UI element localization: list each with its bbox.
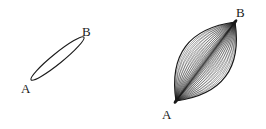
left-figure-label-a: A <box>21 82 30 95</box>
figure-drawing-surface <box>0 0 266 129</box>
figure-canvas: A B A B <box>0 0 266 129</box>
left-figure-ellipse <box>28 33 87 84</box>
left-figure-label-b: B <box>82 25 91 38</box>
right-figure-label-b: B <box>236 6 245 19</box>
right-figure-label-a: A <box>162 108 171 121</box>
right-figure-geodesic-lens <box>173 19 238 105</box>
ellipse-outline <box>28 33 87 84</box>
